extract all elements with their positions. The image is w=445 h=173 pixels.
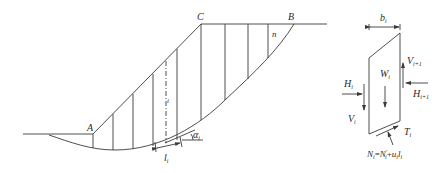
slice-label-n: n bbox=[272, 29, 277, 39]
shear-force-label: Ti bbox=[404, 126, 412, 138]
base-length-dimension bbox=[157, 143, 180, 148]
slip-surface bbox=[49, 24, 294, 150]
right-horizontal-force-label: Hi+1 bbox=[412, 88, 429, 100]
left-vertical-force-label: Vi bbox=[348, 113, 356, 125]
base-angle-label: αi bbox=[193, 129, 200, 141]
slice-free-body-diagram: bi Wi Hi Vi Vi+1 Hi+1 Ti Ni=N′i+uili bbox=[342, 12, 429, 160]
base-length-tick-right bbox=[180, 137, 182, 147]
normal-force-equation: Ni=N′i+uili bbox=[366, 149, 403, 160]
point-label-c: C bbox=[197, 11, 204, 22]
point-label-b: B bbox=[288, 11, 294, 22]
right-vertical-force-label: Vi+1 bbox=[407, 55, 422, 67]
weight-label: Wi bbox=[380, 68, 390, 80]
slope-diagram: A C B n i li αi bbox=[23, 11, 327, 164]
slice-outline bbox=[369, 33, 400, 134]
slope-stability-figure: A C B n i li αi bi Wi Hi Vi Vi+1 Hi+1 Ti bbox=[0, 0, 445, 173]
width-label: bi bbox=[380, 12, 387, 24]
slope-face bbox=[93, 24, 201, 134]
shear-force-arrow bbox=[376, 126, 398, 136]
point-label-a: A bbox=[86, 122, 94, 133]
base-tangent-line bbox=[165, 130, 195, 143]
base-length-label: li bbox=[164, 152, 169, 164]
left-horizontal-force-label: Hi bbox=[343, 78, 353, 90]
normal-force-arrow bbox=[388, 132, 393, 145]
slice-label-i: i bbox=[167, 97, 169, 105]
